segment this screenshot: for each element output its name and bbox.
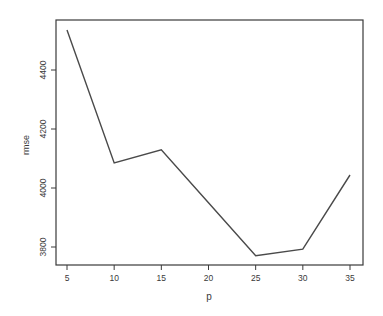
x-tick-label: 30 [298, 273, 308, 283]
y-tick-label: 3800 [38, 237, 48, 256]
y-axis: 3800400042004400 [38, 60, 56, 256]
y-tick-label: 4400 [38, 60, 48, 79]
x-tick-label: 35 [345, 273, 355, 283]
x-tick-label: 20 [204, 273, 214, 283]
y-axis-label: rmse [21, 135, 31, 155]
x-tick-label: 15 [157, 273, 167, 283]
plot-frame [56, 20, 363, 265]
chart-canvas: 3800400042004400 5101520253035 p rmse [0, 0, 383, 316]
x-tick-label: 25 [251, 273, 261, 283]
y-tick-label: 4000 [38, 178, 48, 197]
x-tick-label: 10 [109, 273, 119, 283]
line-chart: 3800400042004400 5101520253035 p rmse [0, 0, 383, 316]
rmse-line [67, 30, 350, 256]
x-axis-label: p [206, 291, 212, 302]
x-tick-label: 5 [65, 273, 70, 283]
y-tick-label: 4200 [38, 119, 48, 138]
x-axis: 5101520253035 [65, 265, 355, 283]
